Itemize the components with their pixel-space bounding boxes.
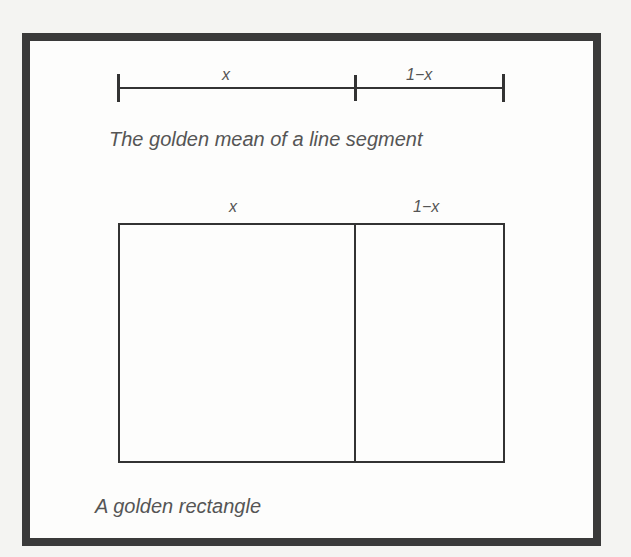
rectangle-divider xyxy=(354,223,356,463)
segment-line xyxy=(118,87,504,89)
rectangle-caption: A golden rectangle xyxy=(95,495,261,518)
segment-tick-division xyxy=(354,75,357,101)
golden-rectangle xyxy=(118,223,505,463)
segment-label-x: x xyxy=(222,66,230,84)
segment-tick-end xyxy=(502,74,505,102)
segment-label-1-minus-x: 1−x xyxy=(406,66,432,84)
rectangle-label-x: x xyxy=(229,198,237,216)
segment-tick-start xyxy=(117,74,120,102)
segment-caption: The golden mean of a line segment xyxy=(109,128,423,151)
rectangle-label-1-minus-x: 1−x xyxy=(413,198,439,216)
